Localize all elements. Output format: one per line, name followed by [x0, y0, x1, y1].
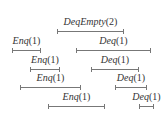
interval-line — [76, 50, 151, 51]
operation-label: Deq(1) — [117, 73, 145, 83]
interval-endpoint-tick — [115, 85, 116, 90]
interval-endpoint-tick — [150, 48, 151, 53]
interval-line — [20, 87, 81, 88]
operation-name: Deq — [132, 91, 149, 102]
interval-endpoint-tick — [80, 85, 81, 90]
interval-endpoint-tick — [57, 29, 58, 34]
interval-endpoint-tick — [91, 67, 92, 72]
operation-name: DeqEmpty — [64, 16, 106, 27]
interval-line — [139, 106, 154, 107]
operation-label: Deq(1) — [132, 92, 160, 102]
operation-name: Enq — [13, 35, 29, 46]
interval-endpoint-tick — [153, 104, 154, 109]
interval-endpoint-tick — [146, 85, 147, 90]
interval-endpoint-tick — [20, 85, 21, 90]
interval-line — [48, 106, 105, 107]
interval-line — [115, 87, 147, 88]
operation-name: Enq — [63, 91, 79, 102]
operation-argument: (1) — [79, 91, 91, 102]
interval-endpoint-tick — [48, 104, 49, 109]
operation-name: Deq — [99, 35, 116, 46]
operation-argument: (1) — [29, 35, 41, 46]
operation-label: DeqEmpty(2) — [64, 17, 118, 27]
operation-argument: (1) — [134, 72, 146, 83]
operation-argument: (1) — [53, 72, 65, 83]
operation-name: Enq — [37, 72, 53, 83]
operation-label: Enq(1) — [31, 55, 59, 65]
interval-endpoint-tick — [104, 104, 105, 109]
interval-endpoint-tick — [76, 48, 77, 53]
operation-argument: (2) — [106, 16, 118, 27]
operation-argument: (1) — [47, 54, 59, 65]
operation-argument: (1) — [116, 35, 128, 46]
interval-endpoint-tick — [12, 48, 13, 53]
interval-endpoint-tick — [40, 48, 41, 53]
interval-endpoint-tick — [123, 29, 124, 34]
operation-label: Deq(1) — [99, 36, 127, 46]
operation-argument: (1) — [149, 91, 161, 102]
operation-name: Enq — [31, 54, 47, 65]
operation-label: Enq(1) — [13, 36, 41, 46]
operation-label: Deq(1) — [101, 55, 129, 65]
interval-line — [57, 31, 124, 32]
operation-name: Deq — [101, 54, 118, 65]
interval-line — [12, 50, 41, 51]
operation-argument: (1) — [118, 54, 130, 65]
operation-label: Enq(1) — [37, 73, 65, 83]
operation-name: Deq — [117, 72, 134, 83]
operation-label: Enq(1) — [63, 92, 91, 102]
interval-line — [91, 69, 139, 70]
interval-line — [30, 69, 60, 70]
interval-endpoint-tick — [30, 67, 31, 72]
interval-endpoint-tick — [139, 104, 140, 109]
